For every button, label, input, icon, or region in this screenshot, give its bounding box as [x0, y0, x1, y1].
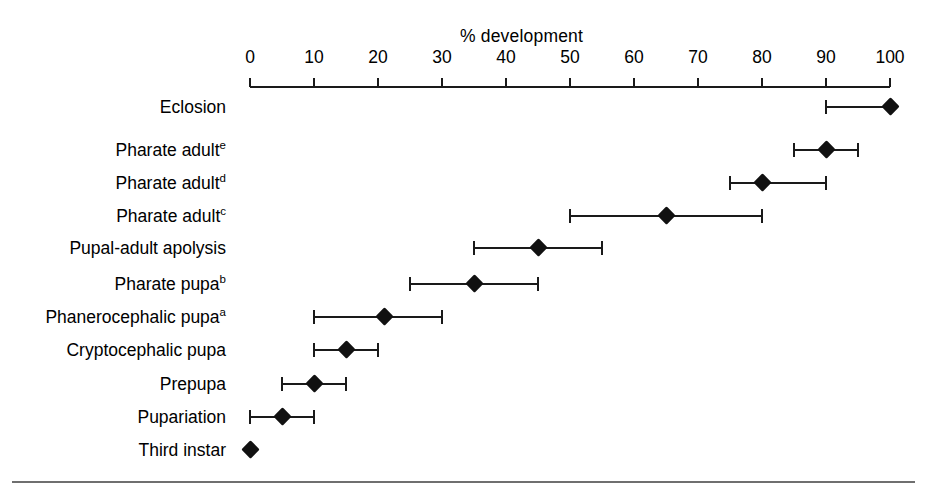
- x-tick-label-0: 0: [245, 47, 255, 68]
- row-plot-area: [0, 273, 931, 295]
- chart-row: Pharate adultd: [0, 172, 931, 194]
- x-tick-label-90: 90: [816, 47, 835, 68]
- x-tick-mark-10: [313, 78, 315, 87]
- row-plot-area: [0, 237, 931, 259]
- chart-row: Pharate pupab: [0, 273, 931, 295]
- x-tick-mark-60: [633, 78, 635, 87]
- error-bar-cap-low: [729, 176, 731, 190]
- row-plot-area: [0, 96, 931, 118]
- data-point-marker: [375, 307, 393, 325]
- x-tick-label-40: 40: [496, 47, 515, 68]
- error-bar-cap-high: [825, 176, 827, 190]
- error-bar-cap-low: [473, 241, 475, 255]
- data-point-marker: [529, 238, 547, 256]
- data-point-marker: [465, 274, 483, 292]
- chart-row: Pharate adulte: [0, 139, 931, 161]
- x-tick-label-80: 80: [752, 47, 771, 68]
- error-bar-cap-low: [793, 143, 795, 157]
- row-plot-area: [0, 439, 931, 461]
- chart-row: Prepupa: [0, 373, 931, 395]
- error-bar-cap-low: [313, 343, 315, 357]
- x-tick-mark-30: [441, 78, 443, 87]
- chart-row: Pupariation: [0, 406, 931, 428]
- data-point-marker: [817, 140, 835, 158]
- error-bar-cap-low: [249, 410, 251, 424]
- x-tick-label-20: 20: [368, 47, 387, 68]
- data-point-marker: [273, 407, 291, 425]
- figure-panel: % development 0102030405060708090100 Ecl…: [0, 0, 931, 497]
- error-bar-cap-low: [313, 310, 315, 324]
- error-bar-cap-high: [441, 310, 443, 324]
- row-plot-area: [0, 306, 931, 328]
- x-tick-mark-100: [889, 78, 891, 87]
- row-plot-area: [0, 139, 931, 161]
- row-plot-area: [0, 205, 931, 227]
- x-tick-mark-40: [505, 78, 507, 87]
- error-bar-cap-high: [537, 277, 539, 291]
- x-axis-tick-labels: 0102030405060708090100: [0, 47, 931, 69]
- x-tick-label-60: 60: [624, 47, 643, 68]
- data-point-marker: [753, 173, 771, 191]
- x-tick-label-100: 100: [875, 47, 904, 68]
- error-bar-line: [730, 182, 826, 184]
- x-tick-label-30: 30: [432, 47, 451, 68]
- bottom-divider-rule: [12, 481, 915, 483]
- x-tick-label-50: 50: [560, 47, 579, 68]
- error-bar-cap-high: [857, 143, 859, 157]
- error-bar-cap-low: [569, 209, 571, 223]
- data-point-marker: [657, 206, 675, 224]
- error-bar-cap-high: [345, 377, 347, 391]
- error-bar-cap-low: [409, 277, 411, 291]
- chart-row: Third instar: [0, 439, 931, 461]
- error-bar-cap-low: [281, 377, 283, 391]
- error-bar-cap-high: [761, 209, 763, 223]
- data-point-marker: [337, 340, 355, 358]
- axis-title-text: % development: [460, 26, 583, 46]
- x-tick-label-10: 10: [304, 47, 323, 68]
- x-tick-mark-50: [569, 78, 571, 87]
- row-plot-area: [0, 172, 931, 194]
- chart-row: Eclosion: [0, 96, 931, 118]
- chart-row: Pharate adultc: [0, 205, 931, 227]
- x-tick-label-70: 70: [688, 47, 707, 68]
- error-bar-cap-high: [313, 410, 315, 424]
- x-tick-mark-0: [249, 78, 251, 87]
- row-plot-area: [0, 406, 931, 428]
- error-bar-line: [826, 106, 890, 108]
- x-tick-mark-90: [825, 78, 827, 87]
- axis-title: % development: [0, 26, 931, 47]
- data-point-marker: [881, 97, 899, 115]
- row-plot-area: [0, 339, 931, 361]
- chart-row: Phanerocephalic pupaa: [0, 306, 931, 328]
- x-tick-mark-70: [697, 78, 699, 87]
- error-bar-cap-high: [601, 241, 603, 255]
- data-point-marker: [241, 440, 259, 458]
- data-point-marker: [305, 374, 323, 392]
- row-plot-area: [0, 373, 931, 395]
- x-tick-mark-80: [761, 78, 763, 87]
- chart-row: Pupal-adult apolysis: [0, 237, 931, 259]
- x-tick-mark-20: [377, 78, 379, 87]
- error-bar-cap-high: [377, 343, 379, 357]
- error-bar-cap-low: [825, 100, 827, 114]
- chart-row: Cryptocephalic pupa: [0, 339, 931, 361]
